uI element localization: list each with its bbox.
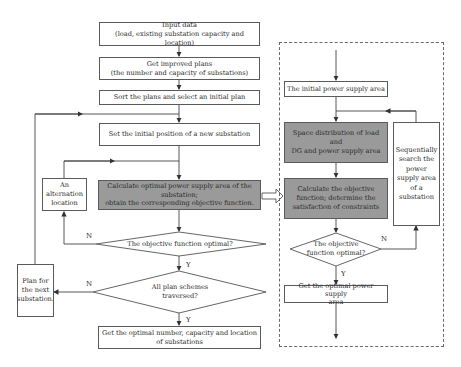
optimal-area-line2: area <box>329 298 344 306</box>
input-data-box: Input data (load, existing substation ca… <box>99 22 260 46</box>
decision-traversed-line2: traversed? <box>152 292 208 301</box>
sub-label-no: N <box>381 235 387 243</box>
alternation-line3: location <box>51 199 78 208</box>
optimal-area-box: Get the optimal power supply area <box>284 285 388 303</box>
space-distribution-line2: DG and power supply area <box>291 147 380 156</box>
calculate-area-box: Calculate optimal power supply area of t… <box>98 180 261 210</box>
next-plan-line2: the next <box>22 286 49 295</box>
final-result-box: Get the optimal number, capacity and loc… <box>98 326 261 349</box>
next-plan-line3: substation. <box>17 295 54 304</box>
initial-power-area-text: The initial power supply area <box>287 85 385 94</box>
label-yes-2: Y <box>186 316 191 324</box>
sequential-line5: of a <box>410 184 422 194</box>
sub-decision-optimal: The objective function optimal? <box>307 240 365 258</box>
calculate-area-line2: substation; <box>161 191 198 200</box>
label-no-2: N <box>86 280 92 288</box>
initial-power-area-box: The initial power supply area <box>284 81 388 97</box>
sequential-line1: Sequentially <box>396 146 438 156</box>
alternation-line2: alternation <box>46 190 83 199</box>
calc-objective-line3: satisfaction of constraints <box>293 203 380 212</box>
sequential-line3: power <box>406 165 427 175</box>
next-plan-box: Plan for the next substation. <box>17 264 54 317</box>
next-plan-line1: Plan for <box>22 277 48 286</box>
calculate-area-line1: Calculate optimal power supply area of t… <box>107 182 251 191</box>
calc-objective-box: Calculate the objective function; determ… <box>284 178 388 219</box>
space-distribution-box: Space distribution of load and DG and po… <box>284 122 388 163</box>
input-data-title: Input data <box>162 21 197 30</box>
sequential-line6: substation <box>399 193 434 203</box>
alternation-location-box: An alternation location <box>42 178 87 211</box>
calculate-area-line3: obtain the corresponding objective funct… <box>105 199 254 208</box>
space-distribution-line1: Space distribution of load and <box>287 129 385 147</box>
sequential-line4: supply area <box>397 174 436 184</box>
improved-plans-box: Get improved plans (the number and capac… <box>99 57 260 80</box>
sub-label-yes: Y <box>341 270 346 278</box>
final-result-line2: of substations <box>156 338 203 347</box>
alternation-line1: An <box>60 181 69 190</box>
optimal-area-line1: Get the optimal power supply <box>287 282 385 298</box>
sort-plans-box: Sort the plans and select an initial pla… <box>99 90 260 105</box>
sequential-search-box: Sequentially search the power supply are… <box>393 122 440 226</box>
set-position-box: Set the initial position of a new substa… <box>99 123 260 146</box>
sub-decision-line1: The objective <box>307 240 365 249</box>
improved-plans-title: Get improved plans <box>147 60 212 69</box>
set-position-text: Set the initial position of a new substa… <box>109 130 250 139</box>
improved-plans-detail: (the number and capacity of substations) <box>111 69 248 78</box>
decision-objective-optimal: The objective function optimal? <box>127 240 232 249</box>
sub-decision-line2: function optimal? <box>307 249 365 258</box>
sequential-line2: search the <box>399 155 434 165</box>
calc-objective-line1: Calculate the objective <box>298 185 375 194</box>
decision-all-traversed: All plan schemes traversed? <box>152 283 208 301</box>
sort-plans-text: Sort the plans and select an initial pla… <box>114 93 246 102</box>
calc-objective-line2: function; determine the <box>296 194 375 203</box>
final-result-line1: Get the optimal number, capacity and loc… <box>102 329 257 338</box>
label-no-1: N <box>86 232 92 240</box>
label-yes-1: Y <box>186 261 191 269</box>
decision-traversed-line1: All plan schemes <box>152 283 208 292</box>
input-data-detail: (load, existing substation capacity and … <box>102 30 257 48</box>
